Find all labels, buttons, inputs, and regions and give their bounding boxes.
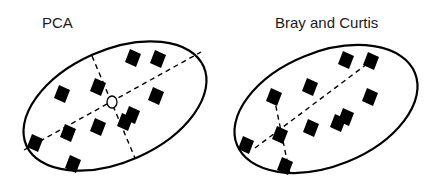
bray-curtis-title: Bray and Curtis — [275, 14, 378, 31]
pca-data-point — [125, 49, 141, 67]
pca-data-point — [60, 124, 76, 142]
bray-curtis-data-point — [272, 126, 288, 144]
pca-data-point — [90, 118, 106, 136]
pca-panel: PCA — [4, 14, 227, 182]
pca-title: PCA — [42, 14, 73, 31]
bray-curtis-data-point — [303, 119, 319, 137]
bray-curtis-panel: Bray and Curtis — [216, 14, 436, 182]
bray-curtis-data-point — [362, 88, 378, 106]
pca-data-point — [90, 78, 106, 96]
pca-data-point — [54, 85, 70, 103]
ordination-comparison-diagram: PCA Bray and Curtis — [0, 0, 436, 182]
bray-curtis-data-point — [302, 78, 318, 96]
bray-curtis-data-point — [363, 52, 379, 70]
bray-curtis-data-point — [266, 88, 282, 106]
pca-data-point — [148, 87, 164, 105]
bray-curtis-ellipse — [216, 20, 436, 182]
pca-centroid-circle — [107, 96, 117, 108]
bray-curtis-data-point — [338, 51, 354, 69]
pca-data-point — [150, 50, 166, 68]
